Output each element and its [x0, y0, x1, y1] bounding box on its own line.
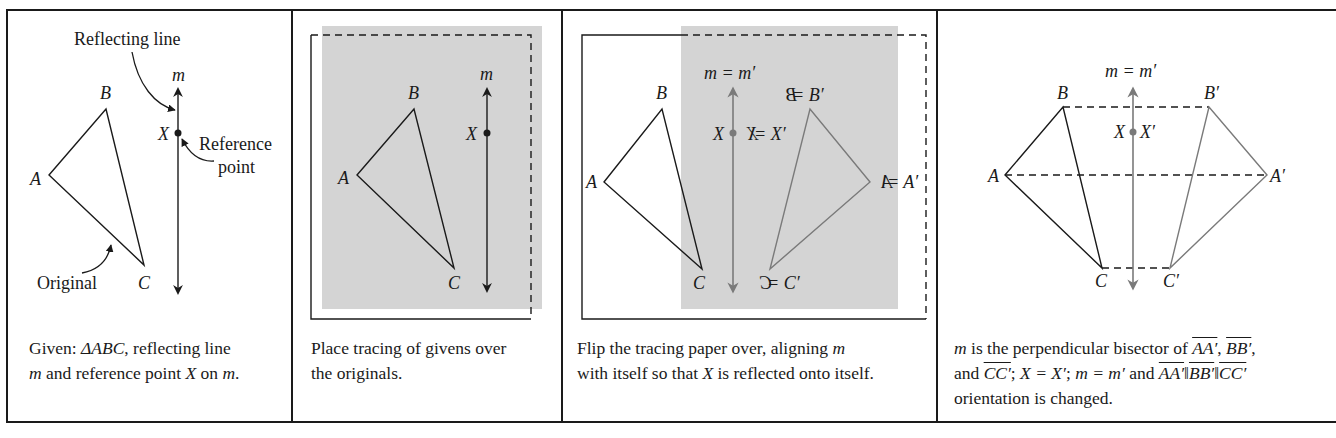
caption-text: ,: [1217, 338, 1226, 358]
label-a-prime: A′: [1269, 166, 1286, 186]
label-x: X: [1113, 122, 1126, 142]
segment-bb-label: BB′: [1189, 363, 1214, 383]
caption-text: orientation is changed.: [954, 388, 1113, 408]
label-b-prime: B′: [1204, 83, 1220, 103]
caption-text: is the perpendicular bisector of: [967, 338, 1192, 358]
label-c-prime: C′: [1163, 271, 1180, 291]
segment-aa-label: AA′: [1192, 338, 1217, 358]
caption-m-eq: m = m′: [1075, 363, 1125, 383]
segment-cc-label: CC′: [984, 363, 1011, 383]
label-x-prime: X′: [1139, 122, 1156, 142]
caption-text: and: [954, 363, 984, 383]
caption-text: ,: [1251, 338, 1255, 358]
caption-m: m: [954, 338, 967, 358]
caption-text: ;: [1011, 363, 1020, 383]
caption-text: ;: [1066, 363, 1075, 383]
triangle-a-b-c-prime: [1170, 107, 1267, 268]
label-c: C: [1095, 271, 1108, 291]
segment-aa-label: AA′: [1159, 363, 1184, 383]
caption-x-eq: X = X′: [1020, 363, 1066, 383]
caption-result: m is the perpendicular bisector of AA′, …: [954, 336, 1324, 411]
segment-cc-label: CC′: [1219, 363, 1246, 383]
label-b: B: [1057, 83, 1068, 103]
label-a: A: [987, 166, 1000, 186]
segment-bb-label: BB′: [1226, 338, 1251, 358]
label-m-eq: m = m′: [1105, 61, 1157, 81]
point-x: [1130, 129, 1137, 136]
triangle-abc: [1005, 107, 1102, 268]
caption-text: and: [1125, 363, 1159, 383]
